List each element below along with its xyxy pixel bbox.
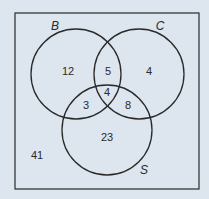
set-label-c: C: [156, 19, 165, 33]
outside-count: 41: [31, 149, 43, 161]
region-value-b-and-s-only: 3: [83, 99, 89, 111]
region-value-b-and-c-and-s: 4: [104, 86, 110, 98]
set-label-b: B: [51, 19, 59, 33]
set-label-s: S: [140, 163, 148, 177]
region-values: 125443823: [62, 65, 152, 143]
region-value-c-and-s-only: 8: [125, 99, 131, 111]
region-value-s-only: 23: [101, 131, 113, 143]
set-circle-s: [62, 85, 152, 175]
region-value-b-only: 12: [62, 65, 74, 77]
venn-diagram: BCS 125443823 41: [0, 0, 209, 199]
universe-rectangle: [15, 13, 199, 189]
set-circles: [31, 29, 184, 175]
region-value-c-only: 4: [146, 65, 152, 77]
region-value-b-and-c-only: 5: [105, 65, 111, 77]
